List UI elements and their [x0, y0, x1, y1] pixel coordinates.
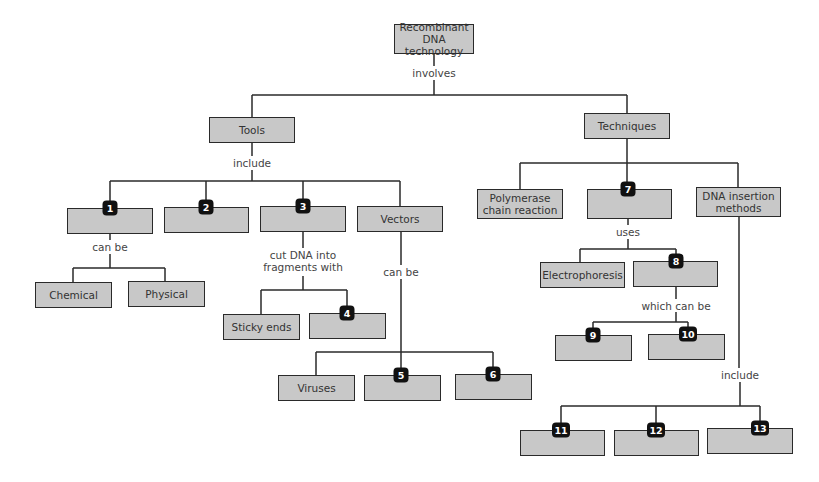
concept-map: Recombinant DNA technology involves Tool… [0, 0, 819, 482]
node-chemical-label: Chemical [49, 289, 98, 301]
badge-6: 6 [486, 367, 501, 382]
node-electrophoresis-label: Electrophoresis [542, 269, 623, 281]
link-tools-include: include [233, 157, 271, 169]
node-dna-insertion: DNA insertion methods [696, 187, 781, 217]
badge-4: 4 [340, 306, 355, 321]
blank-node-13[interactable] [707, 428, 793, 454]
badge-7: 7 [621, 182, 636, 197]
badge-12: 12 [647, 423, 665, 438]
node-pcr-label: Polymerase chain reaction [478, 192, 562, 216]
node-electrophoresis: Electrophoresis [540, 262, 625, 288]
node-viruses-label: Viruses [297, 382, 335, 394]
link-uses: uses [616, 226, 640, 238]
node-dna-insertion-label: DNA insertion methods [697, 190, 780, 214]
badge-1: 1 [103, 201, 118, 216]
badge-13: 13 [751, 421, 769, 436]
node-viruses: Viruses [278, 375, 355, 401]
node-sticky-ends-label: Sticky ends [232, 321, 292, 333]
link-involves: involves [412, 67, 455, 79]
link-insertion-include: include [721, 369, 759, 381]
link-can-be-1: can be [92, 241, 127, 253]
node-root-label: Recombinant DNA technology [395, 21, 473, 57]
badge-11: 11 [552, 423, 570, 438]
node-chemical: Chemical [35, 282, 112, 308]
link-can-be-vectors: can be [383, 266, 418, 278]
node-sticky-ends: Sticky ends [223, 314, 300, 340]
badge-2: 2 [199, 200, 214, 215]
badge-5: 5 [394, 368, 409, 383]
node-physical: Physical [128, 281, 205, 307]
link-which-can-be: which can be [641, 300, 710, 312]
node-techniques-label: Techniques [598, 120, 656, 132]
node-tools: Tools [209, 117, 295, 143]
node-vectors: Vectors [357, 206, 443, 232]
node-physical-label: Physical [145, 288, 188, 300]
node-vectors-label: Vectors [381, 213, 420, 225]
node-tools-label: Tools [239, 124, 265, 136]
badge-3: 3 [296, 199, 311, 214]
badge-10: 10 [679, 327, 697, 342]
badge-9: 9 [586, 328, 601, 343]
node-techniques: Techniques [584, 113, 670, 139]
link-cut-dna: cut DNA into fragments with [248, 249, 358, 273]
node-pcr: Polymerase chain reaction [477, 189, 563, 219]
badge-8: 8 [669, 254, 684, 269]
node-root: Recombinant DNA technology [394, 24, 474, 54]
